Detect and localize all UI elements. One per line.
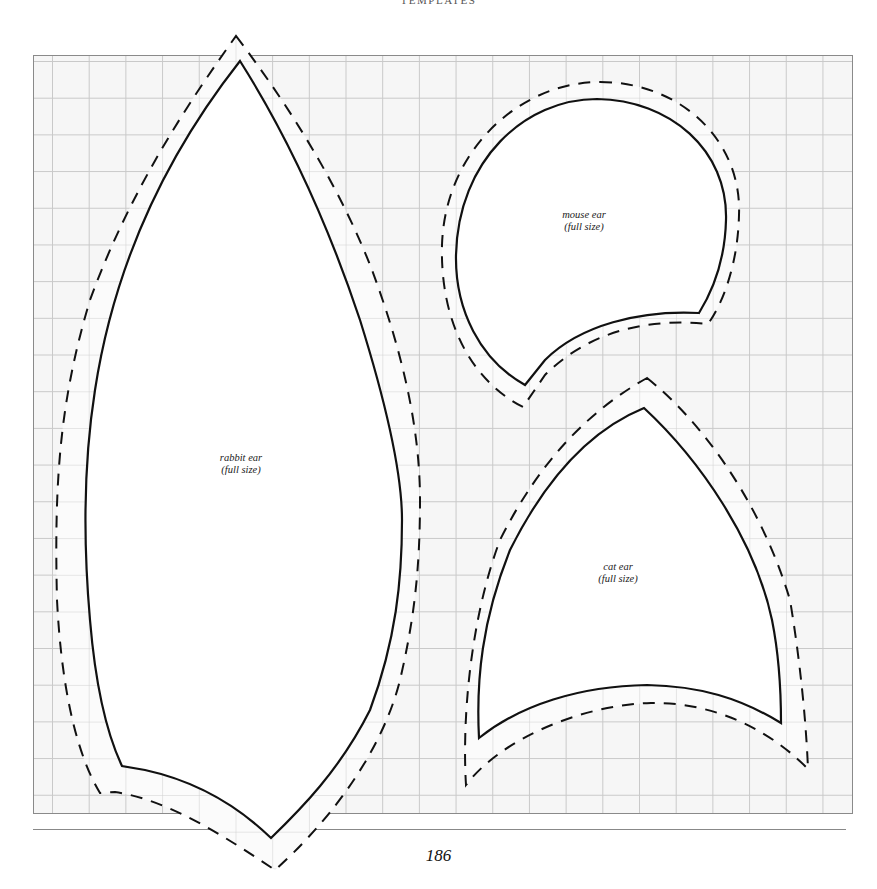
rabbit-ear-note: (full size) [220, 464, 262, 476]
cat-ear-label: cat ear (full size) [598, 561, 637, 585]
mouse-ear-template [442, 82, 739, 407]
mouse-ear-title: mouse ear [562, 209, 605, 221]
rabbit-ear-label: rabbit ear (full size) [220, 452, 262, 476]
mouse-ear-note: (full size) [562, 221, 605, 233]
rabbit-ear-title: rabbit ear [220, 452, 262, 464]
template-shapes [0, 0, 877, 889]
page-number: 186 [0, 846, 877, 866]
mouse-ear-label: mouse ear (full size) [562, 209, 605, 233]
rabbit-ear-cut-line [86, 61, 402, 838]
cat-ear-title: cat ear [598, 561, 637, 573]
cat-ear-note: (full size) [598, 573, 637, 585]
